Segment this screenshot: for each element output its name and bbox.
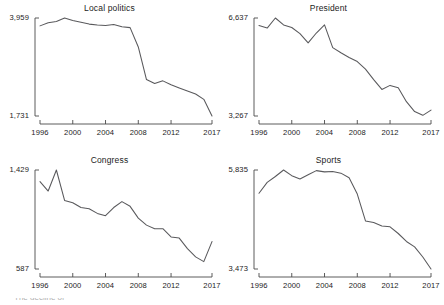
series-line [40,18,212,116]
x-axis-tick-label: 2017 [415,128,444,137]
x-axis-tick-label: 2008 [122,128,154,137]
x-axis-tick-label: 2000 [57,128,89,137]
y-axis-line [35,170,39,269]
x-axis-tick-label: 2000 [57,281,89,290]
x-axis-tick-label: 1996 [24,128,56,137]
panel-sports: Sports 5,835 3,473 199620002004200820122… [219,152,438,305]
y-axis-line [35,18,39,116]
panel-president: President 6,637 3,267 199620002004200820… [219,0,438,152]
x-axis-tick-label: 2012 [374,128,406,137]
x-axis-tick-label: 2017 [415,281,444,290]
x-axis-line [259,120,431,124]
series-line [40,170,212,262]
x-axis-tick-label: 2000 [276,128,308,137]
caption-fragment: The decline of [14,298,64,302]
x-axis-tick-label: 1996 [243,128,275,137]
x-axis-tick-label: 2008 [341,281,373,290]
series-line [259,18,431,115]
x-axis-tick-label: 2000 [276,281,308,290]
x-axis-tick-label: 2008 [341,128,373,137]
panel-congress: Congress 1,429 587 199620002004200820122… [0,152,219,305]
x-axis-tick-label: 1996 [243,281,275,290]
x-axis-tick-label: 2004 [309,281,341,290]
y-axis-line [254,170,258,269]
x-axis-line [40,273,212,277]
x-axis-tick-label: 2012 [155,281,187,290]
x-axis-tick-label: 2008 [122,281,154,290]
x-axis-line [259,273,431,277]
x-axis-tick-label: 2012 [155,128,187,137]
x-axis-tick-label: 2004 [90,128,122,137]
x-axis-line [40,120,212,124]
y-axis-line [254,18,258,116]
panel-local-politics: Local politics 3,959 1,731 1996200020042… [0,0,219,152]
x-axis-tick-label: 2004 [90,281,122,290]
x-axis-tick-label: 2012 [374,281,406,290]
caption-strip: The decline of [0,298,438,305]
series-line [259,170,431,269]
x-axis-tick-label: 2004 [309,128,341,137]
x-axis-tick-label: 1996 [24,281,56,290]
